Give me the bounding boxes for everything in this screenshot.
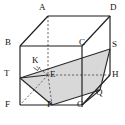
- right-angle-mark-k: [34, 67, 41, 71]
- geometry-figure: A B C D E F G H T P S Q K: [0, 0, 125, 125]
- label-point-q: Q: [96, 88, 103, 97]
- label-vertex-c: C: [79, 38, 85, 47]
- label-vertex-e: E: [50, 70, 56, 79]
- edge-A-B: [20, 16, 48, 46]
- edge-C-D: [82, 16, 110, 46]
- label-point-p: P: [47, 100, 52, 109]
- label-vertex-f: F: [5, 100, 10, 109]
- label-vertex-h: H: [112, 70, 119, 79]
- label-vertex-b: B: [5, 38, 11, 47]
- label-point-s: S: [112, 40, 117, 49]
- label-vertex-d: D: [110, 3, 117, 12]
- label-point-k: K: [32, 56, 39, 65]
- label-vertex-g: G: [77, 100, 84, 109]
- label-vertex-a: A: [39, 3, 46, 12]
- label-point-t: T: [4, 69, 10, 78]
- figure-canvas: [0, 0, 125, 125]
